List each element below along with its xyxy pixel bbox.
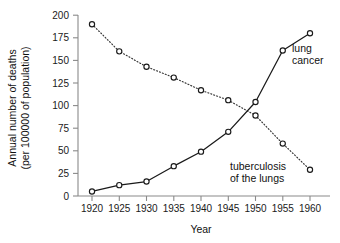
lung-cancer-label-line1: lung — [292, 42, 312, 54]
lung-cancer-point — [144, 179, 149, 184]
x-tick-label: 1960 — [299, 203, 322, 214]
tuberculosis-label-line1: tuberculosis — [230, 160, 286, 172]
x-tick-label: 1955 — [272, 203, 295, 214]
lung-cancer-point — [117, 183, 122, 188]
tuberculosis-point — [253, 113, 258, 118]
lung-cancer-point — [198, 149, 203, 154]
x-tick-label: 1945 — [217, 203, 240, 214]
y-tick-label: 25 — [58, 168, 70, 179]
y-tick-label: 75 — [58, 123, 70, 134]
y-axis-title: Annual number of deaths (per 100000 of p… — [6, 46, 31, 169]
tuberculosis-point — [144, 64, 149, 69]
series-label-tuberculosis: tuberculosis of the lungs — [230, 160, 286, 184]
y-tick-label: 150 — [52, 55, 69, 66]
lung-cancer-point — [226, 129, 231, 134]
y-tick-label: 175 — [52, 32, 69, 43]
x-tick-label: 1925 — [108, 203, 131, 214]
tuberculosis-point — [226, 98, 231, 103]
y-tick-label: 100 — [52, 100, 69, 111]
tuberculosis-label-line2: of the lungs — [230, 172, 284, 184]
x-tick-label: 1950 — [244, 203, 267, 214]
y-axis-ticks: 0 25 50 75 100 125 150 175 200 — [52, 10, 78, 202]
y-tick-label: 0 — [63, 191, 69, 202]
tuberculosis-line — [92, 24, 310, 170]
chart-container: Annual number of deaths (per 100000 of p… — [0, 0, 340, 243]
line-chart-plot: Annual number of deaths (per 100000 of p… — [0, 0, 340, 243]
x-tick-label: 1935 — [163, 203, 186, 214]
x-tick-label: 1940 — [190, 203, 213, 214]
lung-cancer-label-line2: cancer — [292, 54, 324, 66]
tuberculosis-point — [117, 49, 122, 54]
y-tick-label: 200 — [52, 10, 69, 21]
tuberculosis-point — [171, 75, 176, 80]
x-tick-label: 1920 — [81, 203, 104, 214]
y-tick-label: 125 — [52, 78, 69, 89]
x-axis-ticks: 1920 1925 1930 1935 1940 1945 1950 1955 … — [81, 196, 322, 214]
lung-cancer-point — [280, 48, 285, 53]
tuberculosis-point — [198, 88, 203, 93]
lung-cancer-point — [307, 31, 312, 36]
lung-cancer-point — [253, 99, 258, 104]
x-tick-label: 1930 — [135, 203, 158, 214]
series-label-lung-cancer: lung cancer — [292, 42, 324, 66]
lung-cancer-point — [89, 189, 94, 194]
tuberculosis-point — [307, 167, 312, 172]
y-tick-label: 50 — [58, 145, 70, 156]
tuberculosis-point — [89, 22, 94, 27]
tuberculosis-point — [280, 141, 285, 146]
lung-cancer-point — [171, 164, 176, 169]
y-axis-title-line1: Annual number of deaths — [6, 49, 18, 166]
x-axis-title: Year — [190, 223, 212, 235]
y-axis-title-line2: (per 100000 of population) — [19, 46, 31, 169]
